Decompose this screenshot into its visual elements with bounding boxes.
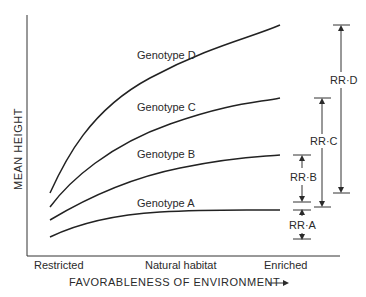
x-axis-title: FAVORABLENESS OF ENVIRONMENT: [69, 276, 280, 288]
tick-natural-habitat: Natural habitat: [145, 259, 217, 271]
svg-text:RR·C: RR·C: [310, 135, 338, 147]
svg-text:RR·A: RR·A: [289, 219, 317, 231]
tick-enriched: Enriched: [264, 259, 307, 271]
y-axis-title: MEAN HEIGHT: [12, 108, 24, 190]
label-genotype-a: Genotype A: [137, 197, 195, 209]
svg-text:RR·D: RR·D: [330, 74, 358, 86]
curve-genotype-a: [50, 210, 280, 237]
label-genotype-d: Genotype D: [137, 49, 196, 61]
bracket-rr-a: RR·A: [289, 210, 317, 239]
bracket-rr-d: RR·D: [330, 25, 358, 193]
tick-restricted: Restricted: [34, 259, 84, 271]
bracket-rr-b: RR·B: [290, 155, 317, 202]
reaction-range-diagram: Genotype D Genotype C Genotype B Genotyp…: [0, 0, 366, 297]
label-genotype-c: Genotype C: [137, 101, 196, 113]
svg-text:RR·B: RR·B: [290, 171, 317, 183]
label-genotype-b: Genotype B: [137, 148, 195, 160]
bracket-rr-c: RR·C: [310, 98, 338, 207]
